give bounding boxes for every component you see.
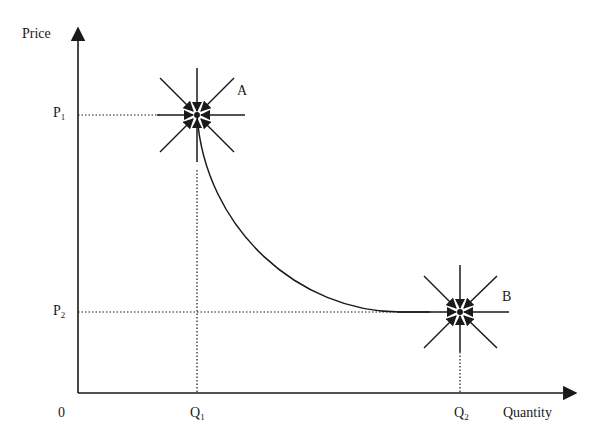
p1-sub: 1 <box>61 112 66 122</box>
point-b-arrows-icon <box>398 265 509 352</box>
point-a-label: A <box>237 84 247 98</box>
point-a-arrows-icon <box>157 68 245 162</box>
path-curve <box>197 115 430 312</box>
q2-sub: 2 <box>464 412 469 422</box>
p2-label: P2 <box>53 304 65 320</box>
diagram-canvas <box>0 0 597 439</box>
guide-lines <box>78 115 460 393</box>
axes <box>78 28 576 393</box>
p1-base: P <box>53 105 61 120</box>
q2-base: Q <box>454 405 464 420</box>
q1-base: Q <box>190 405 200 420</box>
origin-label: 0 <box>58 406 65 420</box>
p2-sub: 2 <box>61 310 66 320</box>
q1-label: Q1 <box>190 406 205 422</box>
point-b-label: B <box>502 290 511 304</box>
p1-label: P1 <box>53 106 65 122</box>
q1-sub: 1 <box>200 412 205 422</box>
y-axis-label: Price <box>22 27 51 41</box>
x-axis-label: Quantity <box>503 406 552 420</box>
q2-label: Q2 <box>454 406 469 422</box>
p2-base: P <box>53 303 61 318</box>
